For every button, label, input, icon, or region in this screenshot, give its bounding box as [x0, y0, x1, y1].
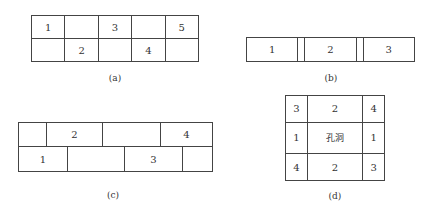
- cell-a-r2-c1: [32, 39, 65, 62]
- cell-a-r1-c5: 5: [165, 16, 198, 39]
- caption-c: (c): [98, 190, 128, 200]
- panel-b-grid: 1 2 3: [246, 37, 415, 62]
- cell-a-r1-c2: [65, 16, 98, 39]
- cell-d-r2-c1: 1: [286, 122, 308, 153]
- cell-a-r1-c4: [132, 16, 165, 39]
- cell-c-r1-c1: [19, 123, 47, 147]
- cell-a-r2-c4: 4: [132, 39, 165, 62]
- panel-d-grid: 3 2 4 1 孔洞 1 4 2 3: [285, 95, 385, 181]
- caption-d: (d): [320, 191, 350, 201]
- cell-a-r2-c2: 2: [65, 39, 98, 62]
- cell-a-r1-c3: 3: [98, 16, 131, 39]
- panel-c-row1: 2 4: [18, 122, 213, 147]
- caption-a: (a): [100, 73, 130, 83]
- cell-d-r3-c1: 4: [286, 154, 308, 181]
- cell-b-c2: [298, 38, 305, 62]
- cell-c-r2-c1: 1: [19, 147, 68, 172]
- cell-c-r1-c4: 4: [161, 123, 213, 147]
- cell-b-c3: 2: [305, 38, 356, 62]
- cell-a-r1-c1: 1: [32, 16, 65, 39]
- panel-c-row2: 1 3: [18, 146, 213, 172]
- cell-b-c4: [356, 38, 363, 62]
- cell-d-r2-c3: 1: [363, 122, 385, 153]
- cell-a-r2-c5: [165, 39, 198, 62]
- cell-c-r1-c3: [103, 123, 161, 147]
- caption-b: (b): [316, 73, 346, 83]
- cell-d-r1-c2: 2: [307, 96, 363, 123]
- cell-d-r3-c3: 3: [363, 154, 385, 181]
- cell-d-r1-c1: 3: [286, 96, 308, 123]
- cell-d-r3-c2: 2: [307, 154, 363, 181]
- cell-b-c1: 1: [247, 38, 298, 62]
- cell-c-r2-c3: 3: [125, 147, 183, 172]
- panel-a-grid: 1 3 5 2 4: [31, 15, 199, 62]
- cell-c-r2-c2: [68, 147, 125, 172]
- cell-b-c5: 3: [363, 38, 414, 62]
- cell-d-hole: 孔洞: [307, 122, 363, 153]
- cell-c-r2-c4: [183, 147, 213, 172]
- cell-d-r1-c3: 4: [363, 96, 385, 123]
- cell-c-r1-c2: 2: [47, 123, 103, 147]
- cell-a-r2-c3: [98, 39, 131, 62]
